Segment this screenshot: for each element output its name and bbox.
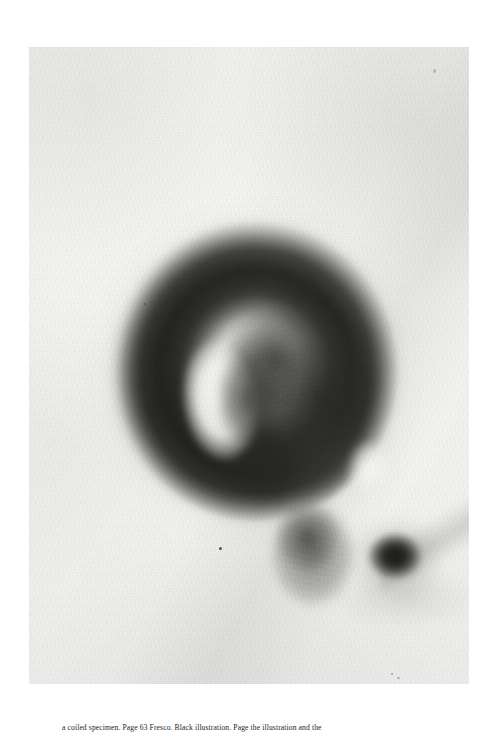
film-grain-layer-2 <box>29 47 469 684</box>
scanned-page: a coiled specimen. Page 63 Fresco. Black… <box>0 0 497 733</box>
caption-text: a coiled specimen. Page 63 Fresco. Black… <box>62 723 322 732</box>
plate-caption: a coiled specimen. Page 63 Fresco. Black… <box>62 723 448 732</box>
photographic-plate <box>29 47 469 684</box>
